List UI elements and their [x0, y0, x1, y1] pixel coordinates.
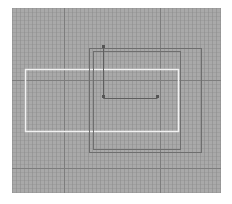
white-rectangle-shape[interactable] [26, 70, 179, 132]
outer-rectangle-shape[interactable] [90, 49, 202, 153]
drawing-layer[interactable] [0, 0, 232, 204]
drawing-viewport[interactable] [0, 0, 232, 204]
vertex-handles[interactable] [102, 45, 159, 98]
major-grid-lines [12, 8, 221, 193]
vertex-handle-icon[interactable] [102, 95, 105, 98]
vertex-handle-icon[interactable] [156, 95, 159, 98]
bracket-polyline-shape[interactable] [104, 47, 158, 99]
vertex-handle-icon[interactable] [102, 45, 105, 48]
inner-rectangle-shape[interactable] [94, 52, 181, 150]
